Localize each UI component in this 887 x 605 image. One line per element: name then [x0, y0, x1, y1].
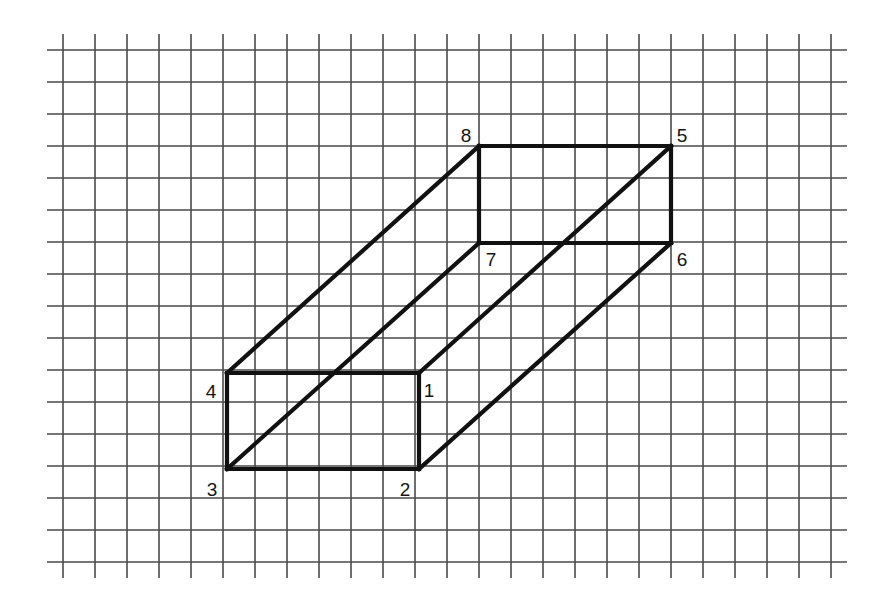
- prism-edge-depth-3-7: [227, 243, 479, 469]
- vertex-label-3: 3: [207, 480, 218, 499]
- vertex-label-7: 7: [486, 250, 497, 269]
- vertex-label-2: 2: [400, 480, 411, 499]
- vertex-label-6: 6: [677, 250, 688, 269]
- vertex-label-8: 8: [461, 126, 472, 145]
- prism-edges: [227, 146, 671, 469]
- vertex-label-1: 1: [424, 381, 435, 400]
- figure-canvas: 12345678: [0, 0, 887, 605]
- vertex-label-5: 5: [677, 126, 688, 145]
- vertex-label-4: 4: [206, 382, 217, 401]
- prism-edge-depth-2-6: [419, 243, 671, 469]
- prism-edge-depth-4-8: [227, 146, 479, 373]
- prism-edge-depth-1-5: [419, 146, 671, 373]
- graph-paper-grid: [47, 34, 847, 578]
- prism-diagram: [0, 0, 887, 605]
